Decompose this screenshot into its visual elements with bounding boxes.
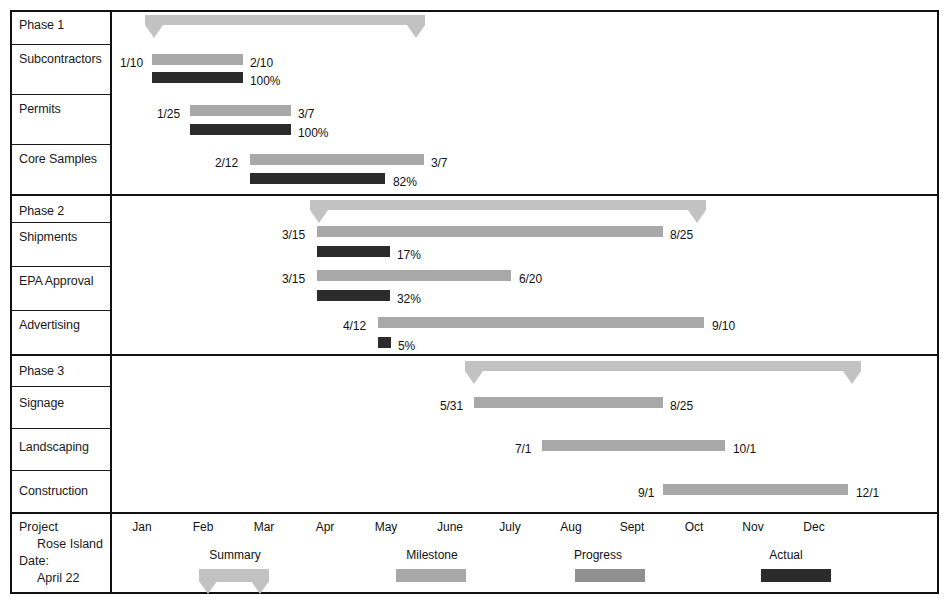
- summary-cap-start-phase-1: [145, 25, 163, 38]
- task-end-label-signage: 8/25: [670, 400, 693, 412]
- task-start-label-advertising: 4/12: [343, 320, 366, 332]
- task-end-label-subcontractors: 2/10: [250, 57, 273, 69]
- summary-bar-phase-3: [465, 361, 861, 371]
- row-separator: [12, 44, 110, 45]
- task-end-label-construction: 12/1: [856, 487, 879, 499]
- frame-top-border: [10, 10, 939, 12]
- actual-bar-epa-approval: [317, 290, 390, 301]
- actual-bar-shipments: [317, 246, 390, 257]
- row-label-permits: Permits: [12, 96, 110, 117]
- row-separator: [12, 470, 110, 471]
- axis-month-nov: Nov: [731, 521, 775, 533]
- row-label-subcontractors: Subcontractors: [12, 46, 110, 67]
- task-start-label-shipments: 3/15: [282, 229, 305, 241]
- footer-date-value: April 22: [19, 570, 79, 587]
- gantt-chart: Phase 1 Subcontractors Permits Core Samp…: [0, 0, 949, 604]
- task-start-label-core-samples: 2/12: [215, 157, 238, 169]
- row-label-epa-approval: EPA Approval: [12, 268, 110, 289]
- legend-label-progress: Progress: [548, 549, 648, 561]
- row-label-phase-1: Phase 1: [12, 12, 110, 33]
- legend-label-summary: Summary: [185, 549, 285, 561]
- task-bar-advertising: [378, 317, 704, 328]
- row-separator: [12, 386, 110, 387]
- task-start-label-epa-approval: 3/15: [282, 273, 305, 285]
- axis-month-aug: Aug: [549, 521, 593, 533]
- row-label-core-samples: Core Samples: [12, 146, 110, 167]
- phase-group-separator: [12, 354, 937, 356]
- summary-cap-end-phase-2: [688, 210, 706, 223]
- task-progress-label-shipments: 17%: [397, 249, 421, 261]
- summary-cap-start-phase-3: [465, 371, 483, 384]
- task-bar-core-samples: [250, 154, 424, 165]
- row-separator: [12, 266, 110, 267]
- task-progress-label-epa-approval: 32%: [397, 293, 421, 305]
- task-bar-epa-approval: [317, 270, 511, 281]
- footer-date-label: Date:: [19, 553, 49, 570]
- axis-month-july: July: [488, 521, 532, 533]
- task-end-label-epa-approval: 6/20: [519, 273, 542, 285]
- row-separator: [12, 144, 110, 145]
- axis-month-jan: Jan: [120, 521, 164, 533]
- task-bar-subcontractors: [152, 54, 243, 65]
- row-label-phase-3: Phase 3: [12, 358, 110, 379]
- task-start-label-subcontractors: 1/10: [120, 57, 143, 69]
- row-label-phase-2: Phase 2: [12, 198, 110, 219]
- actual-bar-permits: [190, 124, 291, 135]
- actual-bar-subcontractors: [152, 72, 243, 83]
- summary-cap-end-phase-3: [843, 371, 861, 384]
- task-bar-landscaping: [542, 440, 725, 451]
- footer-separator: [12, 512, 937, 514]
- actual-bar-core-samples: [250, 173, 385, 184]
- task-end-label-landscaping: 10/1: [733, 443, 756, 455]
- task-start-label-signage: 5/31: [440, 400, 463, 412]
- task-progress-label-core-samples: 82%: [393, 176, 417, 188]
- task-progress-label-advertising: 5%: [398, 340, 415, 352]
- axis-month-oct: Oct: [672, 521, 716, 533]
- legend-summary-cap-end: [251, 581, 269, 594]
- task-end-label-permits: 3/7: [298, 108, 314, 120]
- legend-swatch-progress: [575, 569, 645, 582]
- legend-summary-cap-start: [199, 581, 217, 594]
- row-separator: [12, 222, 110, 223]
- task-bar-construction: [663, 484, 848, 495]
- axis-month-june: June: [425, 521, 475, 533]
- actual-bar-advertising: [378, 337, 391, 348]
- axis-month-dec: Dec: [792, 521, 836, 533]
- row-label-shipments: Shipments: [12, 224, 110, 245]
- task-end-label-core-samples: 3/7: [431, 157, 447, 169]
- task-progress-label-permits: 100%: [298, 127, 328, 139]
- task-start-label-permits: 1/25: [157, 108, 180, 120]
- row-separator: [12, 310, 110, 311]
- row-separator: [12, 94, 110, 95]
- axis-month-feb: Feb: [181, 521, 225, 533]
- summary-cap-start-phase-2: [310, 210, 328, 223]
- legend-swatch-actual: [761, 569, 831, 582]
- task-end-label-shipments: 8/25: [670, 229, 693, 241]
- footer-project-name: Rose Island: [19, 536, 103, 553]
- legend-label-actual: Actual: [736, 549, 836, 561]
- task-progress-label-subcontractors: 100%: [250, 75, 280, 87]
- legend-swatch-milestone: [396, 569, 466, 582]
- task-start-label-construction: 9/1: [638, 487, 654, 499]
- footer-project-label: Project: [19, 519, 58, 536]
- task-start-label-landscaping: 7/1: [515, 443, 531, 455]
- task-bar-permits: [190, 105, 291, 116]
- task-end-label-advertising: 9/10: [712, 320, 735, 332]
- row-label-signage: Signage: [12, 390, 110, 411]
- summary-bar-phase-2: [310, 200, 706, 210]
- axis-month-mar: Mar: [242, 521, 286, 533]
- task-bar-signage: [474, 397, 663, 408]
- row-label-landscaping: Landscaping: [12, 434, 110, 455]
- summary-cap-end-phase-1: [407, 25, 425, 38]
- row-label-advertising: Advertising: [12, 312, 110, 333]
- label-column-divider: [110, 10, 112, 594]
- legend-label-milestone: Milestone: [382, 549, 482, 561]
- row-label-construction: Construction: [12, 478, 110, 499]
- axis-month-sept: Sept: [608, 521, 656, 533]
- axis-month-may: May: [364, 521, 408, 533]
- frame-bottom-border: [10, 592, 939, 594]
- row-separator: [12, 428, 110, 429]
- phase-group-separator: [12, 194, 937, 196]
- frame-right-border: [937, 10, 939, 594]
- task-bar-shipments: [317, 226, 663, 237]
